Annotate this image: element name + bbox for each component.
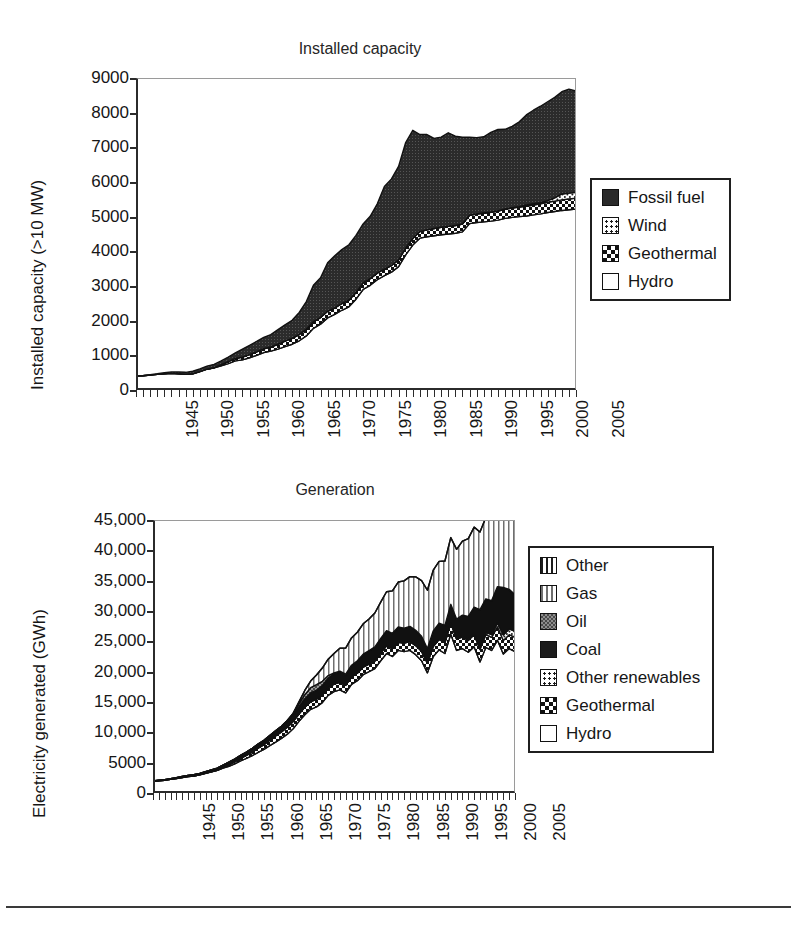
- x-tick-mark: [422, 793, 423, 800]
- x-tick-label: 1975: [375, 803, 395, 841]
- x-tick-mark: [250, 390, 251, 397]
- x-tick-mark: [441, 390, 442, 397]
- x-tick-mark: [229, 793, 230, 800]
- x-tick-mark: [217, 793, 218, 800]
- x-tick-mark: [306, 390, 307, 397]
- x-tick-mark: [316, 793, 317, 800]
- x-tick-mark: [486, 793, 487, 800]
- x-tick-mark: [346, 793, 347, 800]
- legend-item: Wind: [602, 217, 717, 234]
- x-tick-label: 1970: [360, 400, 380, 438]
- x-tick-mark: [334, 793, 335, 800]
- y-tick-label: 5000: [91, 207, 129, 227]
- x-tick-mark: [321, 390, 322, 397]
- x-tick-mark: [200, 390, 201, 397]
- x-tick-mark: [188, 793, 189, 800]
- legend-item: Other: [540, 557, 700, 574]
- x-tick-mark: [457, 793, 458, 800]
- x-tick-mark: [153, 793, 154, 800]
- x-tick-mark: [242, 390, 243, 397]
- y-tick-label: 4000: [91, 241, 129, 261]
- x-tick-mark: [349, 390, 350, 397]
- x-tick-label: 1955: [258, 803, 278, 841]
- x-tick-mark: [480, 793, 481, 800]
- x-tick-mark: [182, 793, 183, 800]
- x-tick-mark: [505, 390, 506, 397]
- x-tick-mark: [375, 793, 376, 800]
- chart2-area-series: [153, 520, 515, 793]
- x-tick-mark: [252, 793, 253, 800]
- x-tick-label: 1975: [396, 400, 416, 438]
- x-tick-mark: [164, 390, 165, 397]
- legend-label: Hydro: [628, 273, 673, 290]
- x-tick-label: 1995: [538, 400, 558, 438]
- x-tick-mark: [194, 793, 195, 800]
- x-tick-mark: [433, 793, 434, 800]
- x-tick-mark: [179, 390, 180, 397]
- x-tick-mark: [335, 390, 336, 397]
- legend-item: Fossil fuel: [602, 189, 717, 206]
- x-tick-mark: [451, 793, 452, 800]
- x-tick-mark: [384, 390, 385, 397]
- footer-divider: [6, 906, 791, 908]
- legend-item: Hydro: [602, 273, 717, 290]
- x-tick-label: 2000: [573, 400, 593, 438]
- x-tick-mark: [427, 793, 428, 800]
- x-tick-mark: [171, 793, 172, 800]
- legend-swatch-icon: [540, 613, 557, 630]
- legend-item: Coal: [540, 641, 700, 658]
- x-tick-mark: [322, 793, 323, 800]
- x-tick-mark: [340, 793, 341, 800]
- x-tick-mark: [223, 793, 224, 800]
- y-tick-label: 10,000: [94, 722, 146, 742]
- chart-installed-capacity: Installed capacity Installed capacity (>…: [0, 0, 797, 470]
- x-tick-mark: [342, 390, 343, 397]
- legend-item: Hydro: [540, 725, 700, 742]
- y-tick-label: 30,000: [94, 601, 146, 621]
- x-tick-mark: [206, 793, 207, 800]
- y-tick-label: 0: [137, 783, 146, 803]
- legend-label: Other renewables: [566, 669, 700, 686]
- legend-swatch-icon: [540, 585, 557, 602]
- x-tick-mark: [503, 793, 504, 800]
- chart1-y-axis-label: Installed capacity (>10 MW): [28, 180, 48, 390]
- x-tick-label: 1945: [200, 803, 220, 841]
- x-tick-mark: [176, 793, 177, 800]
- legend-item: Gas: [540, 585, 700, 602]
- legend-swatch-icon: [602, 217, 619, 234]
- x-tick-mark: [299, 390, 300, 397]
- x-tick-label: 1950: [218, 400, 238, 438]
- chart-generation: Generation Electricity generated (GWh) 4…: [0, 470, 797, 910]
- y-tick-label: 15,000: [94, 692, 146, 712]
- x-tick-mark: [159, 793, 160, 800]
- x-tick-mark: [370, 390, 371, 397]
- chart1-title: Installed capacity: [140, 40, 580, 58]
- x-tick-label: 1950: [229, 803, 249, 841]
- x-tick-mark: [171, 390, 172, 397]
- y-tick-label: 25,000: [94, 631, 146, 651]
- chart2-y-axis-label: Electricity generated (GWh): [30, 609, 50, 818]
- x-tick-mark: [468, 793, 469, 800]
- y-tick-label: 0: [120, 380, 129, 400]
- x-tick-mark: [357, 793, 358, 800]
- y-tick-label: 7000: [91, 137, 129, 157]
- x-tick-mark: [235, 793, 236, 800]
- y-tick-label: 9000: [91, 68, 129, 88]
- x-tick-mark: [186, 390, 187, 397]
- x-tick-mark: [157, 390, 158, 397]
- x-tick-mark: [143, 390, 144, 397]
- x-tick-mark: [462, 793, 463, 800]
- x-tick-label: 1960: [289, 400, 309, 438]
- legend-label: Geothermal: [566, 697, 655, 714]
- x-tick-label: 1990: [502, 400, 522, 438]
- x-tick-mark: [150, 390, 151, 397]
- x-tick-label: 1960: [287, 803, 307, 841]
- x-tick-mark: [474, 793, 475, 800]
- chart2-title: Generation: [140, 481, 530, 499]
- x-tick-label: 1980: [404, 803, 424, 841]
- x-tick-mark: [313, 390, 314, 397]
- x-tick-mark: [509, 793, 510, 800]
- x-tick-mark: [311, 793, 312, 800]
- y-tick-label: 35,000: [94, 571, 146, 591]
- legend-swatch-icon: [602, 245, 619, 262]
